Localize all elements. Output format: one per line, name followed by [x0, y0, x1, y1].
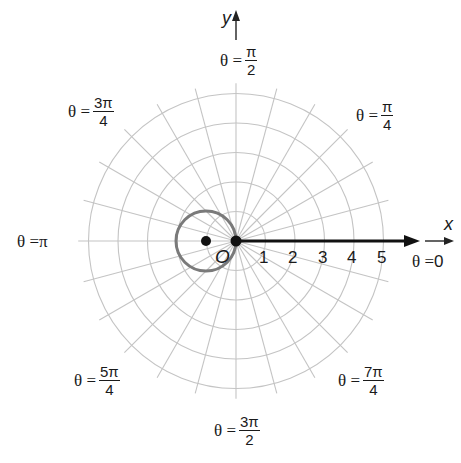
grid-radial-line: [84, 200, 236, 241]
angle-label-pi: θ = π: [17, 233, 48, 250]
x-axis-label: x: [444, 214, 453, 235]
radial-tick-5: 5: [377, 248, 386, 268]
radial-tick-3: 3: [318, 248, 327, 268]
grid-radial-line: [236, 129, 348, 241]
x-axis-arrowhead: [444, 237, 454, 245]
origin-label: O: [215, 246, 230, 268]
radial-tick-1: 1: [259, 248, 268, 268]
angle-label-0: θ = 0: [412, 253, 443, 270]
polar-axis-arrowhead: [404, 235, 420, 247]
radial-tick-2: 2: [288, 248, 297, 268]
origin-point: [231, 236, 242, 247]
angle-label-7pi-over-4: θ = 7π4: [338, 364, 384, 397]
center-point: [201, 236, 211, 246]
grid-radial-line: [236, 241, 315, 378]
angle-label-3pi-over-2: θ = 3π2: [214, 414, 260, 447]
grid-radial-line: [84, 241, 236, 282]
radial-tick-4: 4: [347, 248, 356, 268]
grid-radial-line: [236, 89, 277, 241]
angle-label-3pi-over-4: θ = 3π4: [68, 95, 114, 128]
y-axis-label: y: [222, 8, 231, 29]
grid-radial-line: [195, 89, 236, 241]
grid-radial-line: [236, 104, 315, 241]
y-axis-arrowhead: [232, 10, 240, 21]
grid-radial-line: [236, 162, 373, 241]
angle-label-pi-over-2: θ = π2: [220, 44, 257, 77]
grid-radial-line: [157, 104, 236, 241]
angle-label-pi-over-4: θ = π4: [356, 99, 393, 132]
grid-radial-line: [236, 200, 388, 241]
grid-radial-line: [99, 162, 236, 241]
grid-radial-line: [236, 241, 277, 393]
angle-label-5pi-over-4: θ = 5π4: [74, 364, 120, 397]
